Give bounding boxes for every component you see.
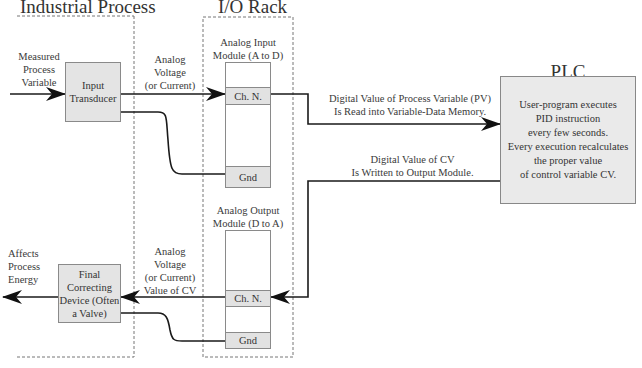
measured-pv-label: Measured Process Variable <box>10 50 68 89</box>
final-correcting-device-box: Final Correcting Device (Often a Valve) <box>58 264 121 323</box>
input-gnd: Gnd <box>225 166 271 188</box>
output-channel-n: Ch. N. <box>225 290 271 307</box>
analog-output-module: Ch. N. Gnd <box>225 230 271 348</box>
analog-input-module: Ch. N. Gnd <box>225 62 271 187</box>
output-ground-wire <box>121 313 225 341</box>
cv-write-label: Digital Value of CV Is Written to Output… <box>330 153 495 179</box>
analog-voltage-label: Analog Voltage (or Current) <box>138 53 202 92</box>
output-module-label: Analog Output Module (D to A) <box>205 204 291 230</box>
input-module-label: Analog Input Module (A to D) <box>205 36 291 62</box>
input-channel-n: Ch. N. <box>225 87 271 105</box>
pv-read-label: Digital Value of Process Variable (PV) I… <box>320 92 500 118</box>
output-gnd: Gnd <box>225 332 271 349</box>
plc-processor-box: User-program executes PID instruction ev… <box>500 76 636 204</box>
analog-cv-label: Analog Voltage (or Current) Value of CV <box>138 245 202 297</box>
industrial-process-title: Industrial Process <box>20 0 156 17</box>
input-transducer-box: Input Transducer <box>65 62 121 122</box>
affects-process-label: Affects Process Energy <box>8 247 48 286</box>
cv-to-output-arrow <box>271 181 500 297</box>
io-rack-title: I/O Rack <box>218 0 287 17</box>
input-ground-wire <box>121 112 225 174</box>
